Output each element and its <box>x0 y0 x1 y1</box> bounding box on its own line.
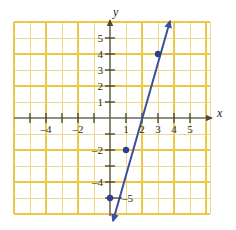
coordinate-plane-figure: y x –4 –2 1 2 3 4 5 5 4 3 2 1 –2 –4 –5 <box>0 0 236 230</box>
y-tick-label-neg5: –5 <box>122 193 133 204</box>
x-axis-label: x <box>217 107 222 119</box>
x-tick-label-1: 1 <box>123 124 129 135</box>
data-points <box>107 51 161 201</box>
graph-canvas <box>0 0 236 230</box>
x-axis <box>14 113 212 123</box>
x-tick-label-2: 2 <box>139 124 145 135</box>
x-tick-label-5: 5 <box>187 124 193 135</box>
x-tick-label-neg4: –4 <box>41 124 52 135</box>
data-point <box>107 195 113 201</box>
x-tick-label-3: 3 <box>155 124 161 135</box>
y-tick-label-1: 1 <box>98 97 104 108</box>
y-tick-label-neg2: –2 <box>92 145 103 156</box>
x-tick-label-neg2: –2 <box>73 124 84 135</box>
y-tick-label-5: 5 <box>98 33 104 44</box>
y-tick-label-4: 4 <box>98 49 104 60</box>
data-point <box>123 147 129 153</box>
y-tick-label-neg4: –4 <box>92 177 103 188</box>
y-axis-label: y <box>113 6 118 18</box>
y-tick-label-2: 2 <box>98 81 104 92</box>
data-point <box>155 51 161 57</box>
y-tick-label-3: 3 <box>98 65 104 76</box>
x-tick-label-4: 4 <box>171 124 177 135</box>
